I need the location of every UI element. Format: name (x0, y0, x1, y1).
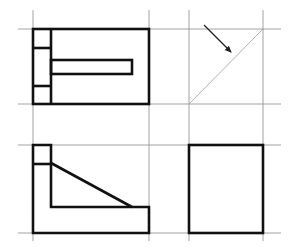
top-view (33, 29, 149, 104)
side-view-outline (189, 145, 263, 233)
miter-construction (189, 25, 263, 104)
projection-drawing (0, 0, 292, 248)
front-view-outline (33, 145, 149, 233)
top-view-slot (51, 60, 132, 74)
side-view (189, 145, 263, 233)
front-view (33, 145, 149, 233)
front-view-rib (51, 163, 132, 207)
miter-line (189, 29, 263, 104)
